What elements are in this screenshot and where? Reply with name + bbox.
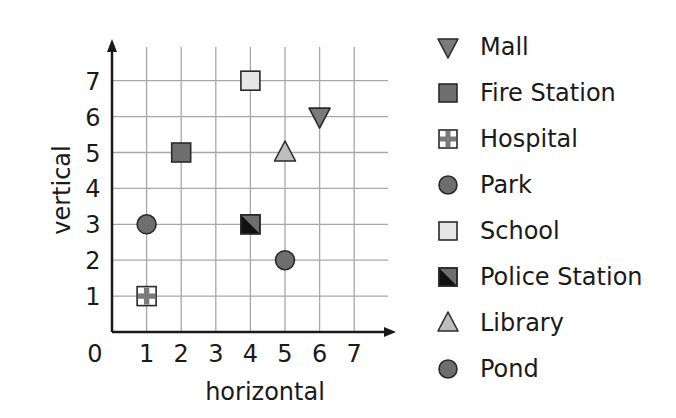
legend-label: Hospital — [480, 127, 578, 151]
data-point-school — [241, 71, 260, 90]
legend-label: Library — [480, 311, 564, 335]
legend-item: Fire Station — [434, 70, 643, 116]
legend-item: Library — [434, 300, 643, 346]
data-point-hospital — [137, 287, 156, 306]
circle-icon — [434, 171, 462, 199]
data-point-police-station — [241, 215, 260, 234]
triangle-up-icon — [434, 309, 462, 337]
x-tick-label: 6 — [312, 340, 327, 368]
legend-label: Park — [480, 173, 532, 197]
data-point-pond — [276, 251, 295, 270]
legend-item: Hospital — [434, 116, 643, 162]
data-point-park — [137, 215, 156, 234]
x-tick-label: 1 — [139, 340, 154, 368]
data-point-mall — [309, 108, 330, 128]
x-tick-label: 7 — [347, 340, 362, 368]
y-tick-label: 2 — [85, 247, 100, 275]
legend: MallFire StationHospitalParkSchoolPolice… — [434, 24, 643, 392]
legend-item: Police Station — [434, 254, 643, 300]
x-tick-label: 3 — [208, 340, 223, 368]
legend-label: School — [480, 219, 560, 243]
legend-label: Pond — [480, 357, 539, 381]
y-tick-label: 6 — [85, 104, 100, 132]
square-icon — [434, 79, 462, 107]
y-tick-label: 1 — [85, 283, 100, 311]
light-square-icon — [434, 217, 462, 245]
legend-item: Mall — [434, 24, 643, 70]
legend-item: School — [434, 208, 643, 254]
circle-icon — [434, 355, 462, 383]
y-axis-title: vertical — [48, 145, 76, 234]
x-axis-title: horizontal — [205, 378, 325, 406]
data-point-fire-station — [172, 143, 191, 162]
y-axis-arrow-icon — [107, 39, 117, 52]
y-tick-label: 4 — [85, 175, 100, 203]
x-tick-label: 4 — [243, 340, 258, 368]
data-point-library — [275, 141, 296, 161]
legend-item: Pond — [434, 346, 643, 392]
x-tick-label: 2 — [174, 340, 189, 368]
legend-label: Fire Station — [480, 81, 616, 105]
y-tick-label: 3 — [85, 211, 100, 239]
triangle-down-icon — [434, 33, 462, 61]
y-tick-label: 7 — [85, 68, 100, 96]
x-tick-label: 0 — [87, 340, 102, 368]
legend-label: Police Station — [480, 265, 643, 289]
hospital-cross-icon — [434, 125, 462, 153]
half-square-icon — [434, 263, 462, 291]
legend-item: Park — [434, 162, 643, 208]
x-axis-arrow-icon — [384, 327, 396, 337]
legend-label: Mall — [480, 35, 529, 59]
y-tick-label: 5 — [85, 140, 100, 168]
x-tick-label: 5 — [277, 340, 292, 368]
